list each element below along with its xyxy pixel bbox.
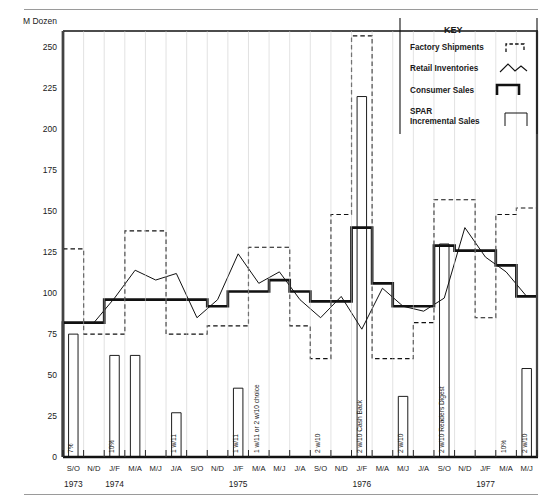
legend-label-consumer-sales: Consumer Sales: [410, 86, 475, 95]
legend-swatch-thick-step-icon: [497, 85, 519, 95]
x-period-label: M/A: [128, 464, 142, 473]
x-period-label: N/D: [335, 464, 349, 473]
spar-sales-chart: 0255075100125150175200225250 M Dozen 7%1…: [0, 0, 546, 503]
x-year-label: 1975: [229, 479, 248, 489]
legend-swatch-dashed-step-icon: [506, 44, 524, 52]
spar-bar-annotation: 1 w/11: [170, 434, 177, 453]
factory-shipments-series: [63, 36, 537, 359]
y-axis-title: M Dozen: [23, 16, 57, 26]
legend-label-retail-inventories: Retail Inventories: [410, 64, 479, 73]
y-tick-200: 200: [43, 124, 57, 134]
x-period-label: M/A: [499, 464, 513, 473]
spar-bar-annotation: 2 w/10 Readers Digest: [438, 386, 446, 453]
x-year-label: 1974: [105, 479, 124, 489]
x-period-label: J/F: [233, 464, 244, 473]
x-axis-period-labels: S/ON/DJ/FM/AM/JJ/AS/ON/DJ/FM/AM/JJ/AS/ON…: [67, 464, 533, 473]
y-tick-0: 0: [52, 452, 57, 462]
x-period-label: M/J: [521, 464, 533, 473]
x-period-label: M/J: [150, 464, 162, 473]
legend-label-spar-line2: Incremental Sales: [410, 117, 480, 126]
consumer-sales-line: [63, 228, 537, 457]
x-period-label: J/A: [418, 464, 430, 473]
spar-bar-annotation: 2 w/10: [521, 433, 528, 453]
y-tick-150: 150: [43, 206, 57, 216]
spar-bar: [130, 355, 139, 457]
bar-annotation-labels: 7%10%1 w/111 w/111 w/11 or 2 w/10 choice…: [67, 384, 527, 453]
x-period-label: J/F: [109, 464, 120, 473]
spar-bar-annotation: 2 w/10 Cash Back: [356, 399, 363, 453]
y-tick-25: 25: [48, 411, 58, 421]
legend-title: KEY: [444, 25, 463, 35]
x-period-label: S/O: [314, 464, 327, 473]
x-period-label: S/O: [438, 464, 451, 473]
spar-bar-annotation: 10%: [108, 440, 115, 453]
legend-swatch-thin-rect-icon: [505, 113, 527, 126]
retail-inventories-line: [73, 228, 526, 330]
x-period-label: N/D: [211, 464, 225, 473]
y-tick-100: 100: [43, 288, 57, 298]
chart-page: 0255075100125150175200225250 M Dozen 7%1…: [0, 0, 546, 503]
spar-incremental-bars: [69, 97, 532, 457]
spar-bar-annotation: 2 w/10: [314, 433, 321, 453]
y-tick-225: 225: [43, 83, 57, 93]
spar-bar-annotation: 1 w/11: [232, 434, 239, 453]
x-period-label: N/D: [458, 464, 472, 473]
consumer-sales-series: [63, 228, 537, 457]
x-period-label: J/A: [171, 464, 183, 473]
retail-inventories-series: [73, 228, 526, 330]
y-tick-175: 175: [43, 165, 57, 175]
legend-swatch-zigzag-line-icon: [500, 64, 527, 72]
legend-label-factory-shipments: Factory Shipments: [410, 43, 484, 52]
x-period-label: M/J: [397, 464, 409, 473]
x-period-label: M/A: [252, 464, 266, 473]
factory-shipments-line: [63, 36, 537, 359]
x-period-label: J/F: [480, 464, 491, 473]
y-axis-tick-labels: 0255075100125150175200225250: [43, 42, 57, 462]
x-period-label: S/O: [67, 464, 80, 473]
x-period-label: J/A: [295, 464, 307, 473]
x-year-label: 1976: [353, 479, 372, 489]
x-period-label: M/J: [273, 464, 285, 473]
x-period-label: J/F: [357, 464, 368, 473]
spar-bar-annotation: 2 w/10: [397, 433, 404, 453]
spar-bar-annotation: 7%: [67, 443, 74, 453]
legend-label-spar-line1: SPAR: [410, 107, 432, 116]
x-period-label: S/O: [190, 464, 203, 473]
spar-bar-annotation: 10%: [500, 440, 507, 453]
y-tick-75: 75: [48, 329, 58, 339]
y-tick-250: 250: [43, 42, 57, 52]
x-period-label: M/A: [376, 464, 390, 473]
x-axis-year-labels: 19731974197519761977: [64, 479, 495, 489]
spar-bar: [69, 334, 78, 457]
x-year-label: 1977: [476, 479, 495, 489]
x-year-label: 1973: [64, 479, 83, 489]
spar-bar-annotation: 1 w/11 or 2 w/10 choice: [253, 384, 260, 453]
y-tick-50: 50: [48, 370, 58, 380]
x-period-label: N/D: [87, 464, 101, 473]
y-tick-125: 125: [43, 247, 57, 257]
